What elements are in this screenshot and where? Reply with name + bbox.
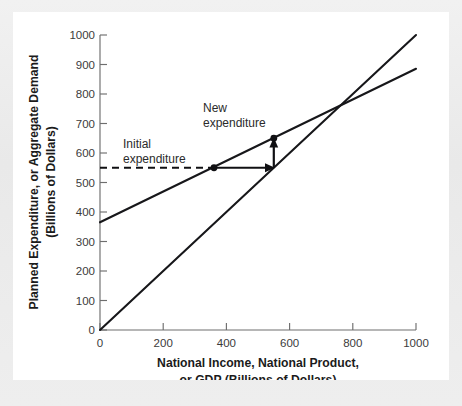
x-tick-label-0: 0: [97, 337, 103, 349]
new-expenditure-label-line2: expenditure: [203, 116, 266, 130]
x-tick-label-800: 800: [343, 337, 362, 349]
y-axis-title: Planned Expenditure, or Aggregate Demand…: [27, 55, 58, 310]
x-tick-labels: 0 200 400 600 800 1000: [97, 337, 429, 349]
x-axis: [100, 323, 416, 330]
new-expenditure-label: New expenditure: [203, 101, 266, 130]
new-expenditure-label-line1: New: [203, 101, 227, 115]
y-tick-label-600: 600: [76, 147, 95, 159]
y-tick-label-800: 800: [76, 88, 95, 100]
x-tick-label-1000: 1000: [403, 337, 429, 349]
x-tick-label-200: 200: [154, 337, 173, 349]
y-axis-title-line1: Planned Expenditure, or Aggregate Demand: [27, 55, 41, 310]
initial-expenditure-dot: [211, 164, 218, 171]
y-axis: [100, 35, 107, 330]
figure-panel: 1000 900 800 700 600 500 400 300 200 100…: [13, 12, 449, 380]
y-tick-label-100: 100: [76, 295, 95, 307]
x-axis-title-line2: or GDP (Billions of Dollars): [180, 373, 337, 380]
chart-canvas: 1000 900 800 700 600 500 400 300 200 100…: [13, 12, 449, 380]
y-tick-label-500: 500: [76, 177, 95, 189]
new-expenditure-dot: [270, 135, 277, 142]
x-tick-label-600: 600: [280, 337, 299, 349]
y-tick-labels: 1000 900 800 700 600 500 400 300 200 100…: [69, 29, 95, 336]
x-axis-title: National Income, National Product, or GD…: [157, 356, 359, 380]
y-tick-label-0: 0: [89, 324, 95, 336]
y-tick-label-200: 200: [76, 265, 95, 277]
figure-root: 1000 900 800 700 600 500 400 300 200 100…: [0, 0, 462, 406]
y-tick-label-1000: 1000: [69, 29, 95, 41]
y-tick-label-900: 900: [76, 59, 95, 71]
initial-expenditure-label-line1: Initial: [123, 137, 151, 151]
y-tick-label-400: 400: [76, 206, 95, 218]
x-tick-label-400: 400: [217, 337, 236, 349]
y-tick-label-700: 700: [76, 118, 95, 130]
y-axis-title-line2: (Billions of Dollars): [44, 126, 58, 238]
x-axis-title-line1: National Income, National Product,: [157, 356, 359, 370]
initial-expenditure-label-line2: expenditure: [123, 152, 186, 166]
series-45-degree-line: [100, 35, 416, 330]
y-tick-label-300: 300: [76, 236, 95, 248]
initial-expenditure-label: Initial expenditure: [123, 137, 186, 166]
